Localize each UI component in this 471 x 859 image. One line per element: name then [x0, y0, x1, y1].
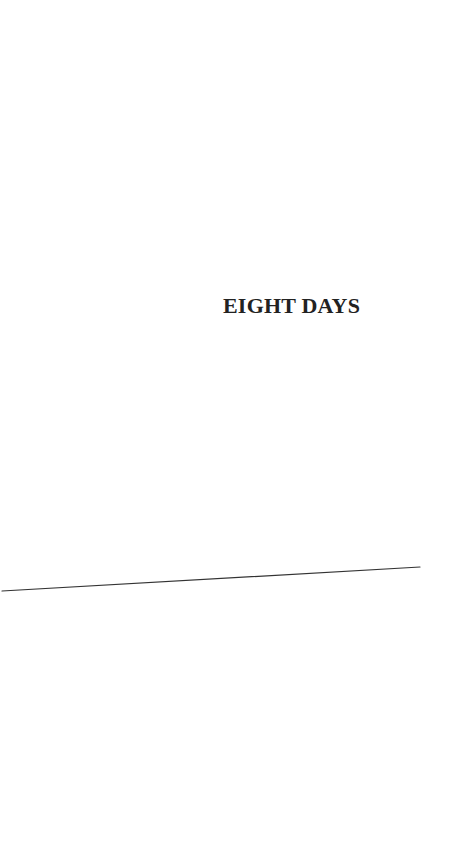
- divider-rule-canvas: [0, 0, 471, 859]
- divider-rule: [2, 567, 420, 591]
- book-page: EIGHT DAYS: [0, 0, 471, 859]
- page-title: EIGHT DAYS: [223, 293, 360, 319]
